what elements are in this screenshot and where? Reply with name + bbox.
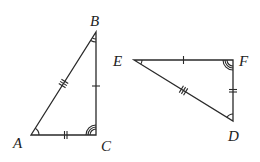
angle-f-triple-arc (223, 60, 233, 70)
angle-a-single-arc (35, 128, 39, 135)
vertex-label-e: E (112, 53, 122, 69)
angle-c-triple-arc (86, 125, 96, 135)
vertex-label-f: F (238, 53, 249, 69)
side-ab-triple-tick (59, 79, 68, 87)
vertex-label-d: D (227, 128, 239, 144)
vertex-label-a: A (12, 135, 23, 151)
vertex-label-c: C (101, 138, 112, 154)
triangle-efd (134, 56, 237, 121)
vertex-label-b: B (90, 13, 99, 29)
congruent-triangles-diagram: A B C E F D (0, 0, 260, 162)
side-ed-triple-tick (179, 86, 187, 95)
triangle-abc (31, 32, 100, 139)
angle-d-double-arc (227, 114, 233, 117)
